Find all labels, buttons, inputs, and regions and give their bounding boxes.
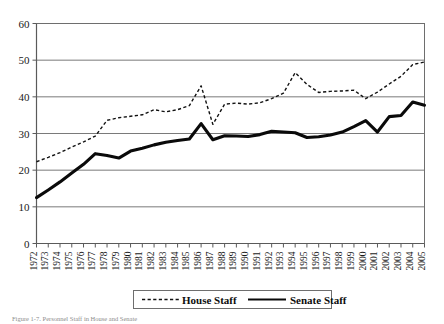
figure-caption: Figure 1-7. Personnel Staff in House and… xyxy=(12,315,137,322)
x-tick-label: 2002 xyxy=(381,251,391,270)
x-tick-label: 1986 xyxy=(193,251,203,270)
x-tick-label: 2000 xyxy=(358,251,368,270)
x-tick-label: 1979 xyxy=(111,251,121,270)
x-tick-label: 1993 xyxy=(275,251,285,270)
x-tick-label: 1977 xyxy=(87,251,97,270)
x-tick-label: 1994 xyxy=(287,251,297,270)
y-tick-label: 30 xyxy=(19,128,31,140)
x-tick-label: 1978 xyxy=(99,251,109,270)
x-tick-label: 1984 xyxy=(170,251,180,270)
x-tick-label: 1995 xyxy=(299,251,309,270)
x-tick-label: 1997 xyxy=(322,251,332,270)
legend-label-house-staff: House Staff xyxy=(182,294,237,306)
y-tick-label: 0 xyxy=(24,238,30,250)
x-tick-label: 1991 xyxy=(252,251,262,270)
x-tick-label: 1989 xyxy=(228,251,238,270)
x-tick-label: 2004 xyxy=(405,251,415,270)
x-tick-label: 1981 xyxy=(134,251,144,270)
x-tick-label: 1976 xyxy=(76,251,86,270)
x-tick-label: 1996 xyxy=(311,251,321,270)
x-tick-label: 1998 xyxy=(334,251,344,270)
series-line-house-staff xyxy=(37,62,425,162)
x-tick-label: 1985 xyxy=(181,251,191,270)
x-tick-label: 1975 xyxy=(64,251,74,270)
y-tick-label: 20 xyxy=(19,164,31,176)
x-tick-label: 1972 xyxy=(29,251,39,270)
x-tick-label: 1999 xyxy=(346,251,356,270)
gridlines xyxy=(37,60,425,207)
x-tick-label: 1980 xyxy=(123,251,133,270)
x-axis-labels: 1972197319741975197619771978197919801981… xyxy=(29,251,427,270)
y-tick-label: 50 xyxy=(19,54,31,66)
x-axis-ticks xyxy=(37,244,425,248)
x-tick-label: 1987 xyxy=(205,251,215,270)
x-tick-label: 2001 xyxy=(369,251,379,270)
series-line-senate-staff xyxy=(37,102,425,198)
figure-container: 0102030405060 19721973197419751976197719… xyxy=(0,0,444,324)
y-tick-label: 10 xyxy=(19,201,31,213)
x-tick-label: 1988 xyxy=(217,251,227,270)
x-tick-label: 1982 xyxy=(146,251,156,270)
x-tick-label: 1990 xyxy=(240,251,250,270)
y-tick-label: 60 xyxy=(19,18,31,30)
chart-legend: House Staff Senate Staff xyxy=(134,291,347,309)
y-axis-labels: 0102030405060 xyxy=(19,18,31,250)
y-tick-label: 40 xyxy=(19,91,31,103)
legend-label-senate-staff: Senate Staff xyxy=(290,294,347,306)
x-tick-label: 2005 xyxy=(417,251,427,270)
x-tick-label: 2003 xyxy=(393,251,403,270)
line-chart: 0102030405060 19721973197419751976197719… xyxy=(0,0,444,324)
x-tick-label: 1992 xyxy=(264,251,274,270)
x-tick-label: 1973 xyxy=(40,251,50,270)
x-tick-label: 1974 xyxy=(52,251,62,270)
x-tick-label: 1983 xyxy=(158,251,168,270)
